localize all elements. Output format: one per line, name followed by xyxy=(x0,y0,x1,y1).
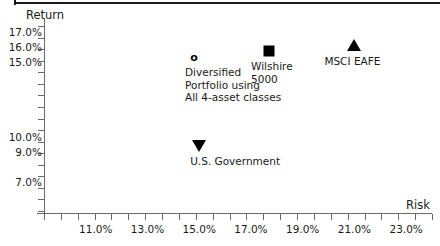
y-axis-tick xyxy=(38,199,44,200)
x-axis-tick xyxy=(246,214,247,220)
y-axis-tick-label: 7.0% xyxy=(15,177,42,188)
y-axis-title: Return xyxy=(26,9,64,22)
marker-filled-square-icon xyxy=(264,46,275,57)
y-axis-tick xyxy=(38,107,44,108)
marker-open-circle-icon: o xyxy=(190,52,198,63)
risk-return-scatter-chart: Return Risk 17.0%16.0%15.0%10.0%9.0%7.0%… xyxy=(0,0,440,246)
x-axis-tick xyxy=(179,214,180,220)
x-axis-tick xyxy=(196,214,197,220)
x-axis-title: Risk xyxy=(406,199,430,212)
x-axis-tick xyxy=(95,214,96,220)
y-axis-tick xyxy=(38,95,44,96)
data-point-label: U.S. Government xyxy=(190,155,280,168)
x-axis-tick xyxy=(280,214,281,220)
x-axis-tick xyxy=(314,214,315,220)
data-point-label: Wilshire 5000 xyxy=(251,60,293,85)
x-axis-tick xyxy=(128,214,129,220)
x-axis-tick xyxy=(145,214,146,220)
x-axis-tick xyxy=(331,214,332,220)
x-axis-tick xyxy=(297,214,298,220)
x-axis-tick xyxy=(432,214,433,220)
x-axis-tick-label: 11.0% xyxy=(79,223,112,235)
x-axis-tick xyxy=(365,214,366,220)
x-axis-tick xyxy=(398,214,399,220)
marker-triangle-up-icon xyxy=(347,39,361,51)
y-axis-tick xyxy=(38,188,44,189)
x-axis-tick xyxy=(230,214,231,220)
x-axis-tick xyxy=(111,214,112,220)
x-axis-tick xyxy=(348,214,349,220)
x-axis-tick-label: 19.0% xyxy=(286,223,319,235)
y-axis-tick-label: 9.0% xyxy=(15,147,42,158)
x-axis-tick xyxy=(415,214,416,220)
x-axis-tick xyxy=(263,214,264,220)
x-axis-tick xyxy=(61,214,62,220)
y-axis-tick xyxy=(38,84,44,85)
y-axis-line xyxy=(44,18,45,214)
x-axis-tick-label: 15.0% xyxy=(183,223,216,235)
y-axis-tick-label: 15.0% xyxy=(9,57,42,68)
marker-triangle-down-icon xyxy=(192,140,206,152)
y-axis-tick xyxy=(38,119,44,120)
x-axis-tick xyxy=(44,214,45,220)
top-divider-left-cap xyxy=(14,0,16,5)
x-axis-tick xyxy=(381,214,382,220)
x-axis-tick-label: 13.0% xyxy=(131,223,164,235)
x-axis-tick xyxy=(213,214,214,220)
y-axis-tick xyxy=(38,72,44,73)
top-divider-rule xyxy=(14,2,440,4)
x-axis-tick-label: 23.0% xyxy=(389,223,422,235)
y-axis-tick xyxy=(38,165,44,166)
data-point-label: MSCI EAFE xyxy=(324,55,380,68)
x-axis-line xyxy=(37,213,432,214)
x-axis-tick-label: 17.0% xyxy=(234,223,267,235)
y-axis-tick-label: 16.0% xyxy=(9,42,42,53)
y-axis-tick-label: 10.0% xyxy=(9,132,42,143)
x-axis-tick-label: 21.0% xyxy=(338,223,371,235)
y-axis-tick xyxy=(38,211,44,212)
y-axis-tick-label: 17.0% xyxy=(9,27,42,38)
x-axis-tick xyxy=(78,214,79,220)
x-axis-tick xyxy=(162,214,163,220)
